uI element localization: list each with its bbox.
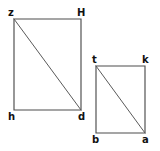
vertex-label-H: H [77, 8, 85, 18]
vertex-label-h: h [8, 112, 15, 122]
right-rectangle-diagonal-t-a [96, 66, 145, 133]
vertex-label-b: b [92, 135, 99, 145]
vertex-label-d: d [78, 112, 85, 122]
figure-canvas [0, 0, 160, 151]
vertex-label-a: a [142, 135, 149, 145]
vertex-label-z: z [8, 8, 14, 18]
vertex-label-t: t [92, 55, 97, 65]
geometry-figure: z H h d t k b a [0, 0, 160, 151]
vertex-label-k: k [142, 55, 149, 65]
left-rectangle-diagonal-z-d [14, 19, 81, 110]
